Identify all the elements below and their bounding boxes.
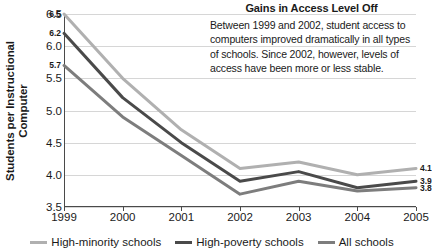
y-axis-tick-label: 5.0 xyxy=(46,105,62,117)
y-axis-tick-labels: 6.56.05.55.04.54.03.5 xyxy=(30,14,62,207)
y-axis-title: Students per Instructional Computer xyxy=(0,0,34,222)
legend-item[interactable]: All schools xyxy=(318,236,394,248)
x-axis-tick-labels: 1999200020012002200320042005 xyxy=(64,211,416,227)
y-axis-tick-label: 6.0 xyxy=(46,40,62,52)
legend-label: High-minority schools xyxy=(51,236,161,248)
x-axis-tick-label: 2005 xyxy=(403,211,429,223)
legend-item[interactable]: High-poverty schools xyxy=(175,236,303,248)
annotation-box: Gains in Access Level Off Between 1999 a… xyxy=(201,2,422,76)
legend-item[interactable]: High-minority schools xyxy=(30,236,161,248)
annotation-title: Gains in Access Level Off xyxy=(201,2,422,14)
x-axis-tick-label: 2001 xyxy=(169,211,195,223)
y-axis-tick-label: 4.0 xyxy=(46,169,62,181)
legend-swatch-icon xyxy=(175,241,192,244)
y-axis-title-line-2: Computer xyxy=(17,41,30,181)
series-start-label: 6.2 xyxy=(49,28,61,38)
annotation-body: Between 1999 and 2002, student access to… xyxy=(201,18,422,76)
x-axis-tick-label: 2002 xyxy=(227,211,253,223)
series-start-label: 6.5 xyxy=(49,9,61,19)
legend-swatch-icon xyxy=(30,241,47,244)
y-axis-title-line-1: Students per Instructional xyxy=(4,41,17,181)
x-axis-tick-label: 2004 xyxy=(345,211,371,223)
y-axis-tick-label: 4.5 xyxy=(46,137,62,149)
series-start-label: 5.7 xyxy=(49,60,61,70)
y-axis-tick-label: 5.5 xyxy=(46,72,62,84)
x-axis-tick-label: 2003 xyxy=(286,211,312,223)
series-end-label: 3.8 xyxy=(420,183,432,193)
x-axis-tick-label: 2000 xyxy=(110,211,136,223)
chart-legend: High-minority schoolsHigh-poverty school… xyxy=(0,232,424,252)
legend-swatch-icon xyxy=(318,241,335,244)
series-end-label: 4.1 xyxy=(420,163,432,173)
x-axis-tick-label: 1999 xyxy=(51,211,77,223)
legend-label: High-poverty schools xyxy=(196,236,303,248)
legend-label: All schools xyxy=(339,236,394,248)
